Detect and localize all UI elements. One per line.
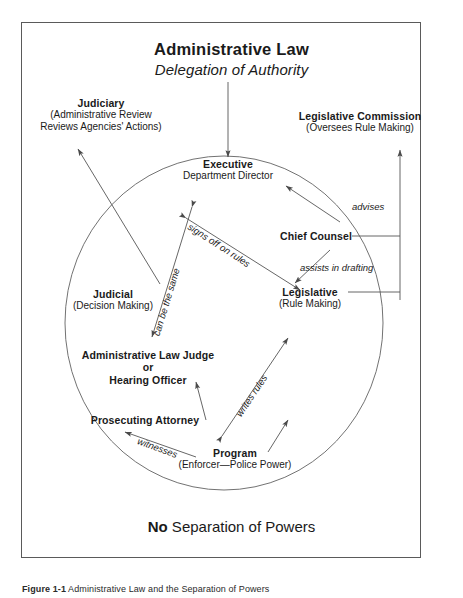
figure-subtitle: Delegation of Authority	[0, 61, 463, 78]
node-legislative-title: Legislative	[272, 286, 348, 298]
node-judicial-title: Judicial	[48, 288, 178, 300]
node-judiciary-line1: (Administrative Review	[16, 109, 186, 121]
node-legislative-line1: (Rule Making)	[272, 298, 348, 310]
node-legislative: Legislative (Rule Making)	[272, 286, 348, 310]
node-judiciary-title: Judiciary	[16, 97, 186, 109]
node-legislative-commission-title: Legislative Commission	[280, 110, 440, 122]
node-executive-line1: Department Director	[158, 170, 298, 182]
node-administrative-law-judge: Administrative Law Judge or Hearing Offi…	[53, 349, 243, 386]
node-prosecuting-attorney-title: Prosecuting Attorney	[70, 414, 220, 426]
node-program-line1: (Enforcer—Police Power)	[160, 459, 310, 471]
node-legislative-commission: Legislative Commission (Oversees Rule Ma…	[280, 110, 440, 134]
node-alj-line2: Hearing Officer	[53, 374, 243, 386]
edge-label-advises: advises	[352, 201, 384, 212]
node-legislative-commission-line1: (Oversees Rule Making)	[280, 122, 440, 134]
node-executive-title: Executive	[158, 158, 298, 170]
node-executive: Executive Department Director	[158, 158, 298, 182]
node-alj-line1: or	[53, 361, 243, 373]
figure-title: Administrative Law	[0, 40, 463, 59]
node-prosecuting-attorney: Prosecuting Attorney	[70, 414, 220, 426]
footer-emphasis: No	[148, 518, 168, 535]
node-chief-counsel: Chief Counsel	[268, 230, 352, 242]
footer-rest: Separation of Powers	[168, 518, 316, 535]
node-alj-title: Administrative Law Judge	[53, 349, 243, 361]
edge-label-assists-in-drafting: assists in drafting	[300, 262, 373, 273]
node-judiciary: Judiciary (Administrative Review Reviews…	[16, 97, 186, 133]
caption-label: Figure 1-1	[22, 584, 66, 594]
node-judiciary-line2: Reviews Agencies' Actions)	[16, 121, 186, 133]
figure-caption: Figure 1-1 Administrative Law and the Se…	[22, 584, 442, 594]
node-program: Program (Enforcer—Police Power)	[160, 447, 310, 471]
figure-footer-title: No Separation of Powers	[0, 518, 463, 535]
caption-text: Administrative Law and the Separation of…	[66, 584, 269, 594]
node-program-title: Program	[160, 447, 310, 459]
figure-container: Administrative Law Delegation of Authori…	[0, 0, 463, 598]
node-chief-counsel-title: Chief Counsel	[268, 230, 352, 242]
